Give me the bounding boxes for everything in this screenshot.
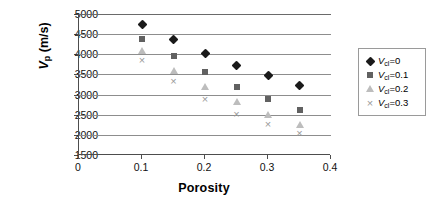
legend-label: Vcl=0.1 bbox=[378, 69, 408, 81]
gridline bbox=[79, 34, 331, 35]
data-point bbox=[233, 110, 241, 118]
data-point bbox=[296, 129, 304, 137]
legend-item-2[interactable]: Vcl=0.2 bbox=[364, 82, 421, 96]
diamond-marker bbox=[365, 56, 375, 66]
data-point bbox=[202, 69, 208, 75]
data-point bbox=[234, 84, 240, 90]
legend-symbol bbox=[364, 97, 376, 109]
data-point bbox=[200, 48, 210, 58]
x-tick-label: 0.3 bbox=[252, 162, 282, 173]
gridline bbox=[79, 135, 331, 136]
legend-item-3[interactable]: Vcl=0.3 bbox=[364, 96, 421, 110]
x-tick-label: 0.2 bbox=[189, 162, 219, 173]
y-axis-label: Vp (m/s) bbox=[34, 0, 50, 94]
data-point bbox=[171, 53, 177, 59]
data-point bbox=[233, 98, 241, 105]
x-tick-mark bbox=[267, 155, 268, 159]
legend-symbol bbox=[364, 69, 376, 81]
legend-label: Vcl=0.3 bbox=[378, 97, 408, 109]
chart-legend: Vcl=0Vcl=0.1Vcl=0.2Vcl=0.3 bbox=[358, 48, 426, 116]
data-point bbox=[263, 70, 273, 80]
data-point bbox=[169, 34, 179, 44]
data-point bbox=[137, 19, 147, 29]
data-point bbox=[265, 96, 271, 102]
data-point bbox=[201, 83, 209, 90]
data-point bbox=[297, 107, 303, 113]
x-tick-mark bbox=[330, 155, 331, 159]
x-tick-label: 0.4 bbox=[315, 162, 345, 173]
gridline bbox=[79, 115, 331, 116]
x-tick-mark bbox=[141, 155, 142, 159]
data-point bbox=[295, 81, 305, 91]
triangle-marker bbox=[366, 85, 374, 92]
x-axis-label: Porosity bbox=[78, 181, 330, 195]
legend-label: Vcl=0.2 bbox=[378, 83, 408, 95]
x-tick-label: 0.1 bbox=[126, 162, 156, 173]
plot-area bbox=[78, 14, 330, 155]
y-axis-unit: (m/s) bbox=[37, 22, 51, 52]
data-point bbox=[232, 60, 242, 70]
cross-marker bbox=[366, 99, 374, 107]
legend-item-0[interactable]: Vcl=0 bbox=[364, 54, 421, 68]
x-tick-mark bbox=[78, 155, 79, 159]
data-point bbox=[201, 95, 209, 103]
y-axis-label-text: Vp (m/s) bbox=[37, 22, 51, 69]
y-axis-symbol: V bbox=[37, 61, 51, 69]
data-point bbox=[138, 56, 146, 64]
legend-symbol bbox=[364, 55, 376, 67]
legend-item-1[interactable]: Vcl=0.1 bbox=[364, 68, 421, 82]
legend-symbol bbox=[364, 83, 376, 95]
data-point bbox=[264, 111, 272, 118]
data-point bbox=[170, 67, 178, 74]
y-axis-subscript: p bbox=[42, 56, 52, 62]
data-point bbox=[170, 77, 178, 85]
data-point bbox=[139, 36, 145, 42]
legend-label: Vcl=0 bbox=[378, 55, 400, 67]
data-point bbox=[264, 120, 272, 128]
data-point bbox=[138, 47, 146, 54]
square-marker bbox=[367, 72, 373, 78]
chart-figure: Vp (m/s) 1500200025003000350040004500500… bbox=[0, 0, 434, 212]
gridline bbox=[79, 14, 331, 15]
x-tick-mark bbox=[204, 155, 205, 159]
x-tick-label: 0 bbox=[63, 162, 93, 173]
